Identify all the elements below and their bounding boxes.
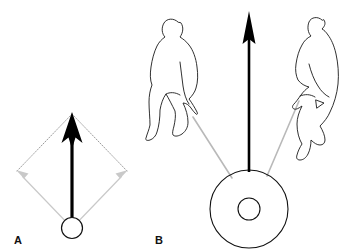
panel-a-label: A <box>14 234 22 246</box>
figure-canvas: A <box>0 0 363 252</box>
figure-root: A <box>0 0 363 252</box>
panel-b-label: B <box>155 234 163 246</box>
point-of-application <box>62 218 83 239</box>
